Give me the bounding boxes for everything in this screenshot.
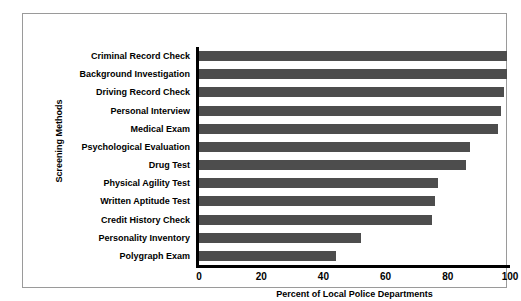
x-axis-line	[196, 265, 510, 268]
x-tick-label: 40	[318, 271, 329, 282]
x-tick-label: 60	[380, 271, 391, 282]
y-axis-label: Screening Methods	[54, 81, 64, 201]
category-label: Medical Exam	[130, 121, 190, 137]
category-label: Physical Agility Test	[103, 175, 190, 191]
bar	[199, 178, 438, 188]
bar	[199, 142, 470, 152]
plot-area: Criminal Record Check Background Investi…	[199, 47, 510, 265]
bar	[199, 87, 504, 97]
x-tick-label: 20	[256, 271, 267, 282]
category-label: Written Aptitude Test	[100, 193, 190, 209]
bar	[199, 51, 507, 61]
bar	[199, 124, 498, 134]
x-tick-label: 80	[442, 271, 453, 282]
category-label: Personality Inventory	[98, 230, 190, 246]
x-tick-label: 100	[502, 271, 519, 282]
bar	[199, 196, 435, 206]
category-label: Driving Record Check	[96, 84, 190, 100]
category-label: Background Investigation	[79, 66, 190, 82]
category-label: Credit History Check	[101, 212, 190, 228]
x-tick-label: 0	[196, 271, 202, 282]
bar	[199, 160, 466, 170]
bar	[199, 69, 507, 79]
bar	[199, 215, 432, 225]
chart-figure: Screening Methods Criminal Record Check …	[0, 0, 521, 301]
category-label: Psychological Evaluation	[81, 139, 190, 155]
bar	[199, 106, 501, 116]
category-label: Personal Interview	[110, 103, 190, 119]
category-label: Criminal Record Check	[91, 48, 190, 64]
x-axis-label: Percent of Local Police Departments	[199, 289, 510, 299]
chart-frame: Screening Methods Criminal Record Check …	[22, 13, 507, 288]
category-label: Drug Test	[149, 157, 190, 173]
bar	[199, 233, 361, 243]
category-label: Polygraph Exam	[119, 248, 190, 264]
bar	[199, 251, 336, 261]
